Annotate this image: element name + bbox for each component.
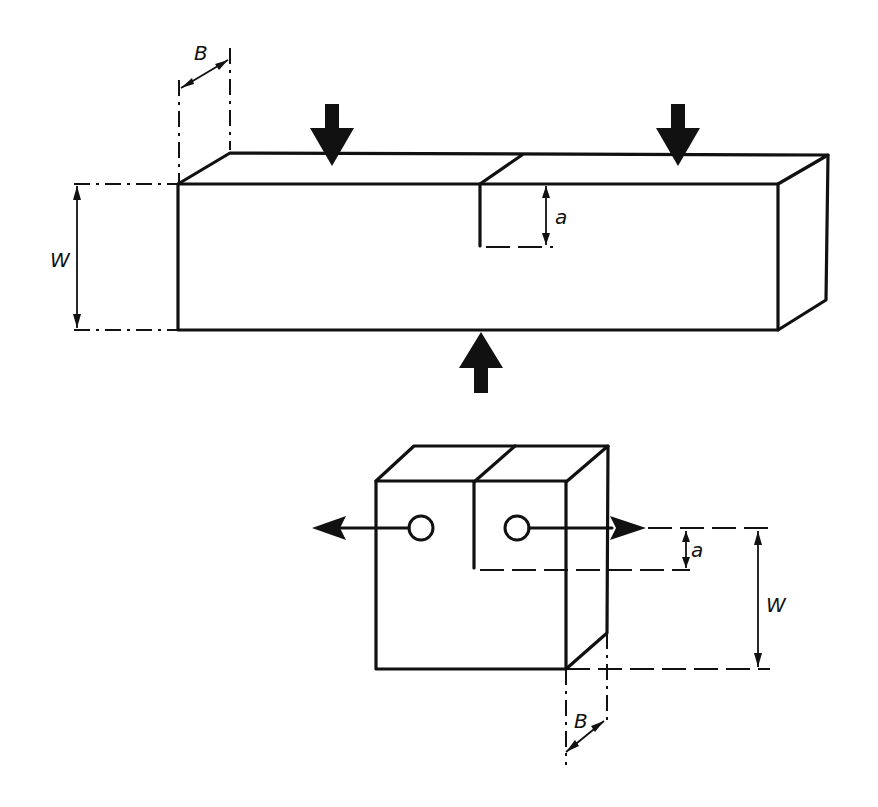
bend-specimen: B W a — [50, 41, 828, 393]
arrowhead-icon — [73, 186, 81, 200]
notch-top-line — [480, 155, 522, 184]
label-b-top: B — [194, 41, 208, 65]
arrowhead-icon — [181, 78, 194, 88]
load-arrow-down-icon — [310, 104, 354, 166]
ct-specimen-side-face — [566, 446, 608, 669]
compact-tension-specimen: a W B — [312, 446, 787, 765]
arrowhead-icon — [682, 557, 690, 568]
load-arrow-up-icon — [459, 332, 503, 393]
pin-hole-right — [505, 516, 529, 540]
arrowhead-icon — [682, 531, 690, 542]
label-w-top: W — [50, 248, 71, 272]
label-a-bottom: a — [691, 538, 703, 562]
arrowhead-icon — [754, 653, 762, 667]
pin-hole-left — [409, 516, 433, 540]
ct-specimen-top-face — [376, 446, 608, 482]
bend-specimen-front-face — [178, 184, 778, 330]
label-b-bottom: B — [574, 709, 588, 733]
ct-notch-top-line — [474, 446, 515, 482]
load-arrow-down-icon — [656, 104, 700, 166]
specimen-diagram: B W a — [0, 0, 878, 807]
label-w-bottom: W — [766, 593, 787, 617]
arrowhead-icon — [542, 233, 550, 245]
label-a-top: a — [555, 205, 567, 229]
arrowhead-icon — [73, 314, 81, 328]
arrowhead-icon — [566, 740, 579, 752]
arrowhead-icon — [754, 531, 762, 545]
arrowhead-icon — [215, 60, 228, 70]
arrowhead-icon — [542, 186, 550, 198]
ct-specimen-front-face — [376, 481, 566, 669]
tension-arrow-right-icon — [610, 516, 646, 540]
